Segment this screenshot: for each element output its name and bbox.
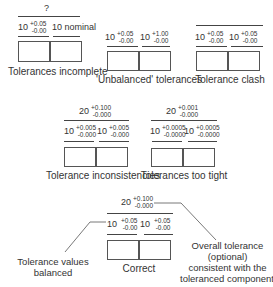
note-tolerance-balanced: Tolerance values balanced xyxy=(14,256,92,278)
leader-line-right xyxy=(154,203,216,240)
note-overall-tolerance: Overall tolerance (optional) consistent … xyxy=(180,240,273,284)
leader-line-left xyxy=(65,222,106,252)
